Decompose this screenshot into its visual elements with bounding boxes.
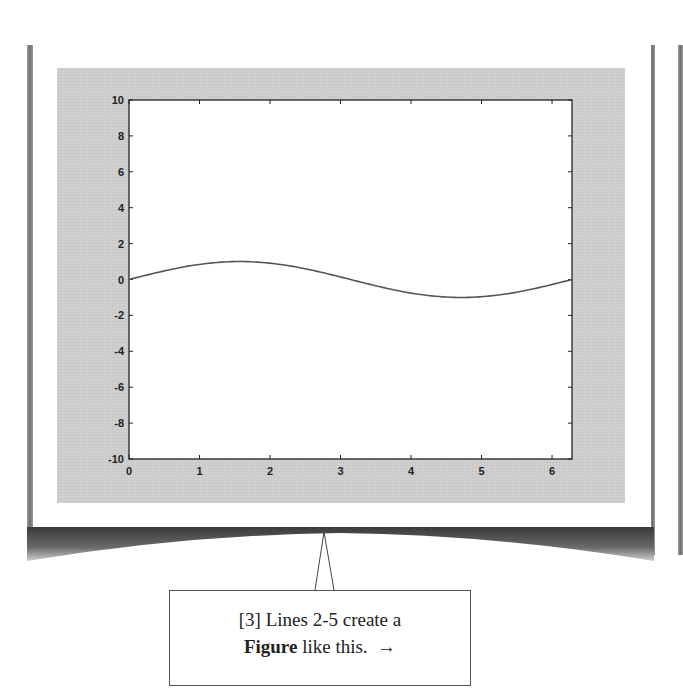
- y-tick-label: 6: [118, 166, 124, 178]
- callout-bold-word: Figure: [244, 636, 297, 657]
- x-tick-label: 5: [478, 465, 484, 477]
- y-tick-label: -8: [114, 417, 124, 429]
- y-tick-label: 2: [118, 238, 124, 250]
- right-arrow-icon: →: [377, 636, 396, 657]
- y-tick-label: 4: [118, 202, 125, 214]
- x-tick-label: 3: [337, 465, 343, 477]
- x-tick-label: 4: [408, 465, 415, 477]
- callout-line-1: [3] Lines 2-5 create a: [170, 606, 470, 633]
- y-tick-label: -4: [114, 345, 125, 357]
- x-tick-label: 2: [267, 465, 273, 477]
- y-tick-label: 8: [118, 130, 124, 142]
- x-tick-label: 0: [126, 465, 132, 477]
- y-tick-label: -2: [114, 309, 124, 321]
- y-tick-label: -6: [114, 381, 124, 393]
- callout-box: [3] Lines 2-5 create a Figure like this.…: [169, 590, 471, 686]
- x-tick-label: 1: [196, 465, 202, 477]
- y-tick-label: -10: [108, 453, 124, 465]
- callout-suffix: like this.: [297, 636, 367, 657]
- callout-line-2: Figure like this. →: [170, 633, 470, 660]
- y-tick-label: 0: [118, 274, 124, 286]
- x-tick-label: 6: [549, 465, 555, 477]
- y-tick-label: 10: [112, 94, 124, 106]
